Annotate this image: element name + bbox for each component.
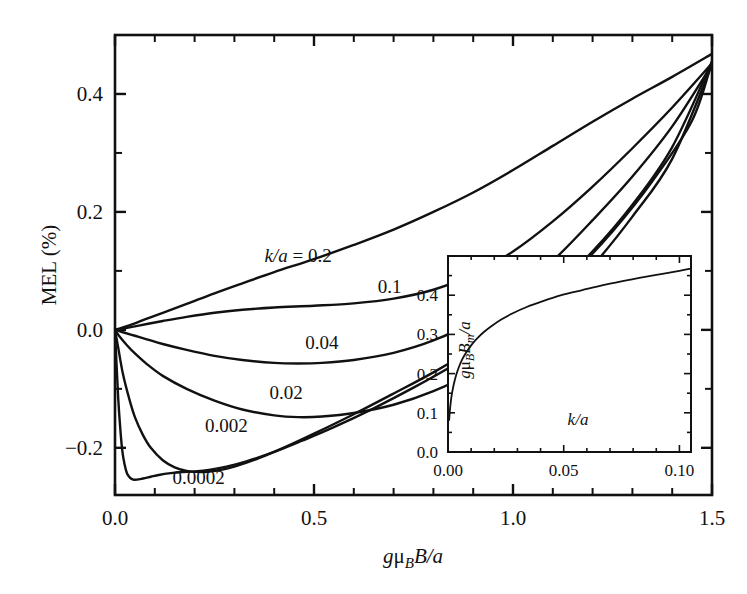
curve-label: k/a = 0.2 xyxy=(264,245,331,266)
inset-y-tick-label: 0.0 xyxy=(417,443,438,462)
curve-label: 0.1 xyxy=(378,276,402,297)
y-tick-label: 0.0 xyxy=(77,318,103,342)
y-tick-label: −0.2 xyxy=(65,436,103,460)
curve-label: 0.04 xyxy=(305,332,339,353)
inset-x-tick-label: 0.10 xyxy=(665,461,695,480)
x-tick-label: 1.5 xyxy=(699,506,725,530)
x-tick-label: 0.5 xyxy=(301,506,327,530)
inset-y-tick-label: 0.3 xyxy=(417,325,438,344)
y-tick-label: 0.4 xyxy=(77,82,104,106)
x-tick-label: 0.0 xyxy=(102,506,128,530)
curve-label: 0.0002 xyxy=(172,467,224,488)
y-tick-label: 0.2 xyxy=(77,200,103,224)
inset-y-tick-label: 0.2 xyxy=(417,365,438,384)
x-axis-title: gμBB/a xyxy=(383,544,443,571)
inset-y-tick-label: 0.1 xyxy=(417,404,438,423)
x-tick-label: 1.0 xyxy=(500,506,526,530)
curve-label: 0.002 xyxy=(205,415,248,436)
inset-x-tick-label: 0.05 xyxy=(549,461,579,480)
y-axis-title: MEL (%) xyxy=(37,225,61,305)
inset-y-tick-label: 0.4 xyxy=(417,286,439,305)
mel-vs-field-chart: 0.00.51.01.5−0.20.00.20.4 k/a = 0.20.10.… xyxy=(0,0,747,594)
inset-x-axis-title: k/a xyxy=(568,410,589,429)
inset-x-tick-label: 0.00 xyxy=(433,461,463,480)
curve-label: 0.02 xyxy=(270,382,303,403)
figure-container: 0.00.51.01.5−0.20.00.20.4 k/a = 0.20.10.… xyxy=(0,0,747,594)
inset-y-axis-title: gμBBm/a xyxy=(455,321,477,379)
